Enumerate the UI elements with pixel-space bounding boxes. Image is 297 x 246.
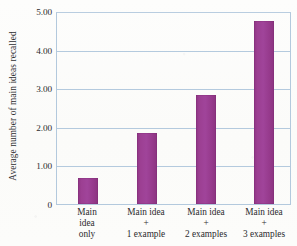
x-label-line: Main: [57, 207, 117, 218]
y-tick-label: 0: [48, 200, 53, 210]
x-label-line: idea: [57, 218, 117, 229]
x-label-line: Main idea: [233, 207, 295, 218]
chart-figure: Average number of main ideas recalled 5.…: [0, 0, 297, 246]
y-axis-title: Average number of main ideas recalled: [2, 0, 24, 212]
y-axis-title-text: Average number of main ideas recalled: [8, 31, 18, 180]
x-label-line: Main idea: [116, 207, 176, 218]
x-label-line: 3 examples: [233, 229, 295, 240]
y-tick-label: 1.00: [36, 161, 52, 171]
x-label-line: 2 examples: [175, 229, 237, 240]
y-tick-label: 4.00: [36, 46, 52, 56]
x-label-line: Main idea: [175, 207, 237, 218]
y-axis-tick-labels: 5.00 4.00 3.00 2.00 1.00 0: [22, 0, 55, 246]
y-tick-label: 3.00: [36, 84, 52, 94]
x-label-main-idea-3-examples: Main idea + 3 examples: [233, 207, 295, 241]
y-tick-label: 5.00: [36, 7, 52, 17]
x-label-main-idea-1-example: Main idea + 1 example: [116, 207, 176, 241]
x-label-main-idea-2-examples: Main idea + 2 examples: [175, 207, 237, 241]
x-label-line: 1 example: [116, 229, 176, 240]
bar-main-idea-3-examples: [254, 21, 274, 204]
x-label-line: +: [233, 218, 295, 229]
bar-main-idea-1-example: [137, 133, 157, 204]
bar-main-idea-only: [78, 178, 98, 204]
y-tick-label: 2.00: [36, 123, 52, 133]
x-label-line: +: [116, 218, 176, 229]
x-label-line: only: [57, 229, 117, 240]
bars-layer: [57, 13, 290, 204]
x-axis-category-labels: Main idea only Main idea + 1 example Mai…: [56, 207, 291, 246]
plot-area: [56, 12, 291, 205]
x-label-line: +: [175, 218, 237, 229]
x-label-main-idea-only: Main idea only: [57, 207, 117, 241]
bar-main-idea-2-examples: [196, 95, 216, 204]
